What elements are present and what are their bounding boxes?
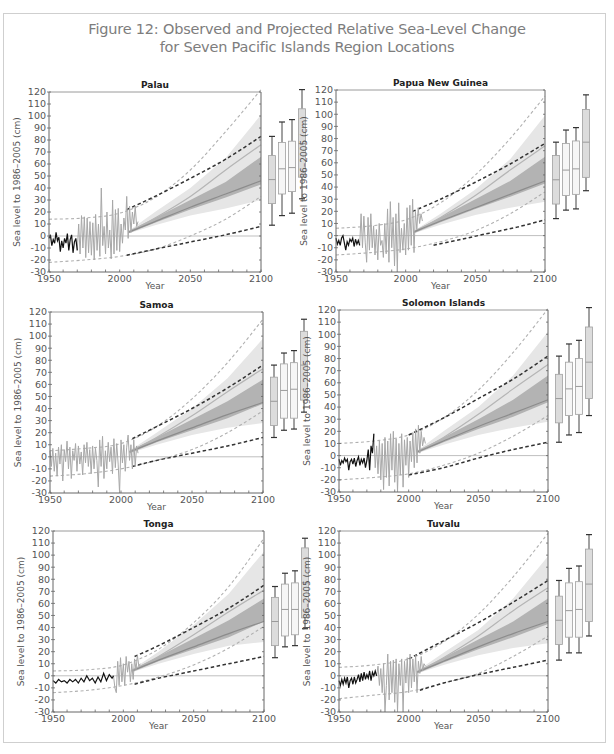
y-tick-label: 70 xyxy=(35,367,47,378)
y-tick-label: 10 xyxy=(321,218,333,229)
observed-tide-gauge-line xyxy=(49,232,77,252)
x-tick-label: 2050 xyxy=(466,713,490,724)
y-tick-label: 40 xyxy=(324,401,336,412)
y-tick-label: 110 xyxy=(318,537,336,548)
x-axis-label: Year xyxy=(144,281,164,291)
y-tick-label: 80 xyxy=(324,353,336,364)
lower-bound-dashed-dark xyxy=(434,220,545,245)
y-tick-label: 20 xyxy=(324,426,336,437)
boxplot-4 xyxy=(586,535,593,636)
y-tick-label: 30 xyxy=(324,634,336,645)
y-tick-label: 50 xyxy=(324,389,336,400)
y-tick-label: 50 xyxy=(35,391,47,402)
y-tick-label: -10 xyxy=(320,462,336,473)
boxplot-4 xyxy=(586,308,593,416)
y-tick-label: 60 xyxy=(35,379,47,390)
y-tick-label: -20 xyxy=(320,694,336,705)
y-tick-label: 20 xyxy=(324,646,336,657)
boxplot-box xyxy=(292,583,299,635)
y-tick-label: -10 xyxy=(30,242,46,253)
boxplot-box xyxy=(563,143,570,195)
y-tick-label: 30 xyxy=(35,415,47,426)
y-tick-label: 80 xyxy=(35,355,47,366)
x-tick-label: 2100 xyxy=(249,273,273,284)
boxplot-box xyxy=(289,141,296,191)
x-tick-label: 1950 xyxy=(38,494,62,505)
observed-reconstructed-line xyxy=(50,435,138,493)
y-tick-label: 70 xyxy=(324,365,336,376)
x-tick-label: 2100 xyxy=(536,713,560,724)
x-tick-label: 1950 xyxy=(41,713,65,724)
y-tick-label: 120 xyxy=(318,525,336,536)
y-tick-label: 60 xyxy=(321,157,333,168)
x-tick-label: 2100 xyxy=(536,493,560,504)
x-tick-label: 2050 xyxy=(463,273,487,284)
y-tick-label: 120 xyxy=(32,525,50,536)
x-tick-label: 2100 xyxy=(251,494,275,505)
boxplot-2 xyxy=(281,353,288,430)
panel-title: Palau xyxy=(141,80,169,90)
boxplot-1 xyxy=(269,136,276,225)
y-tick-label: -20 xyxy=(30,254,46,265)
y-axis-label: Sea level to 1986–2005 (cm) xyxy=(12,117,22,247)
y-tick-label: 90 xyxy=(34,122,46,133)
x-tick-label: 1950 xyxy=(327,713,351,724)
x-tick-label: 1950 xyxy=(324,273,348,284)
observed-reconstructed-line xyxy=(77,188,138,260)
boxplot-box xyxy=(281,364,288,418)
y-tick-label: 60 xyxy=(324,377,336,388)
y-tick-label: 100 xyxy=(32,549,50,560)
y-tick-label: 100 xyxy=(315,109,333,120)
y-tick-label: 90 xyxy=(324,341,336,352)
x-tick-label: 2000 xyxy=(109,494,133,505)
boxplot-box xyxy=(586,327,593,399)
y-tick-label: 50 xyxy=(38,610,50,621)
y-tick-label: -10 xyxy=(320,682,336,693)
y-tick-label: 40 xyxy=(35,403,47,414)
y-tick-label: 20 xyxy=(38,646,50,657)
y-tick-label: 110 xyxy=(28,98,46,109)
y-tick-label: 0 xyxy=(330,670,336,681)
boxplot-box xyxy=(279,142,286,194)
y-tick-label: 10 xyxy=(34,218,46,229)
x-tick-label: 2050 xyxy=(182,713,206,724)
y-tick-label: 100 xyxy=(28,110,46,121)
y-tick-label: -10 xyxy=(34,682,50,693)
x-tick-label: 2000 xyxy=(108,273,132,284)
y-tick-label: 80 xyxy=(34,134,46,145)
boxplot-1 xyxy=(553,142,560,218)
x-tick-label: 2050 xyxy=(178,273,202,284)
x-tick-label: 1950 xyxy=(327,493,351,504)
y-tick-label: 100 xyxy=(318,329,336,340)
y-axis-label: Sea level to 1986–2005 (cm) xyxy=(16,557,26,687)
boxplot-4 xyxy=(583,95,590,191)
panel-tuvalu: Tuvalu-30-20-100102030405060708090100110… xyxy=(302,519,593,731)
boxplot-box xyxy=(282,584,289,636)
y-tick-label: 10 xyxy=(324,438,336,449)
x-axis-label: Year xyxy=(430,281,450,291)
panel-title: Tonga xyxy=(143,519,173,529)
boxplot-1 xyxy=(556,356,563,442)
y-tick-label: 0 xyxy=(327,230,333,241)
boxplot-1 xyxy=(271,365,278,437)
x-tick-label: 1950 xyxy=(37,273,61,284)
y-tick-label: 70 xyxy=(38,586,50,597)
boxplot-2 xyxy=(282,573,289,647)
y-tick-label: 0 xyxy=(41,451,47,462)
y-tick-label: 90 xyxy=(321,121,333,132)
y-tick-label: 40 xyxy=(321,181,333,192)
y-tick-label: 80 xyxy=(321,133,333,144)
y-tick-label: 120 xyxy=(28,86,46,97)
y-axis-label: Sea level to 1986–2005 (cm) xyxy=(299,116,309,246)
boxplot-2 xyxy=(566,344,573,435)
lower-bound-dashed-dark xyxy=(127,226,261,255)
y-tick-label: 30 xyxy=(34,194,46,205)
y-tick-label: 30 xyxy=(324,414,336,425)
panel-tonga: Tonga-30-20-1001020304050607080901001101… xyxy=(16,519,309,731)
y-tick-label: 10 xyxy=(35,439,47,450)
y-tick-label: 40 xyxy=(34,182,46,193)
x-axis-label: Year xyxy=(433,501,453,511)
y-tick-label: -20 xyxy=(317,254,333,265)
y-tick-label: 80 xyxy=(324,574,336,585)
y-tick-label: 0 xyxy=(44,670,50,681)
